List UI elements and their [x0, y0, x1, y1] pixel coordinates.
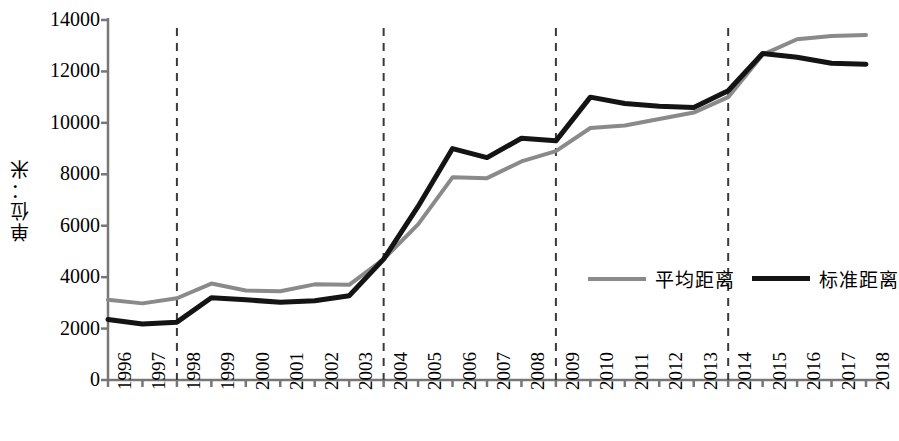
x-axis-tick-label: 2012: [666, 352, 685, 390]
x-axis-tick-label: 2001: [287, 352, 306, 390]
x-axis-tick-label: 2014: [735, 352, 754, 390]
x-axis-tick-label: 2002: [322, 352, 341, 390]
legend-line-icon-average: [588, 277, 646, 281]
x-axis-tick-label: 2017: [839, 352, 858, 390]
legend-label-standard: 标准距离: [819, 265, 899, 292]
x-axis-tick-label: 1997: [149, 352, 168, 390]
legend-line-icon-standard: [752, 276, 810, 281]
x-axis-tick-label: 1996: [115, 352, 134, 390]
x-axis-tick-label: 2003: [356, 352, 375, 390]
x-axis-tick-label: 2000: [253, 352, 272, 390]
x-axis-tick-label: 2006: [460, 352, 479, 390]
legend-item-average-distance: 平均距离: [588, 265, 735, 292]
series-line-average-distance: [108, 35, 866, 303]
x-axis-tick-label: 1998: [184, 352, 203, 390]
x-axis-tick-label: 2008: [528, 352, 547, 390]
x-axis-tick-label: 2013: [701, 352, 720, 390]
x-axis-tick-label: 2010: [597, 352, 616, 390]
x-axis-tick-label: 2011: [632, 353, 651, 390]
legend-label-average: 平均距离: [655, 265, 735, 292]
legend-item-standard-distance: 标准距离: [752, 265, 899, 292]
x-axis-tick-label: 2016: [804, 352, 823, 390]
x-axis-tick-label: 2009: [563, 352, 582, 390]
x-axis-tick-label: 2015: [770, 352, 789, 390]
x-axis-tick-label: 1999: [218, 352, 237, 390]
x-axis-tick-label: 2007: [494, 352, 513, 390]
x-axis-tick-label: 2018: [873, 352, 892, 390]
x-axis-tick-label: 2005: [425, 352, 444, 390]
x-axis-tick-label: 2004: [391, 352, 410, 390]
